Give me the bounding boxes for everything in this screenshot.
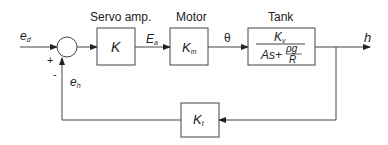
input-label: ed bbox=[20, 29, 32, 43]
tank-inner-numerator: ρg bbox=[285, 43, 298, 54]
tank-denominator-prefix: As+ bbox=[260, 48, 282, 62]
summing-junction bbox=[57, 37, 77, 57]
block-diagram: ed + - eh Servo amp. K Ea Motor Km θ Tan… bbox=[0, 0, 388, 145]
minus-sign: - bbox=[53, 68, 57, 80]
feedback-signal-label: eh bbox=[70, 75, 81, 89]
output-label: h bbox=[364, 30, 371, 45]
feedback-gain: Kt bbox=[193, 112, 205, 127]
tank-inner-denominator: R bbox=[289, 54, 296, 65]
motor-title: Motor bbox=[176, 10, 207, 24]
motor-gain: Km bbox=[182, 40, 197, 55]
tank-title: Tank bbox=[268, 10, 294, 24]
plus-sign: + bbox=[47, 54, 53, 66]
tank-numerator: Kv bbox=[274, 30, 286, 44]
feedback-return-line bbox=[62, 58, 181, 120]
servo-amp-gain: K bbox=[111, 39, 121, 55]
theta-label: θ bbox=[224, 31, 231, 45]
servo-amp-title: Servo amp. bbox=[90, 10, 151, 24]
ea-label: Ea bbox=[146, 32, 158, 46]
